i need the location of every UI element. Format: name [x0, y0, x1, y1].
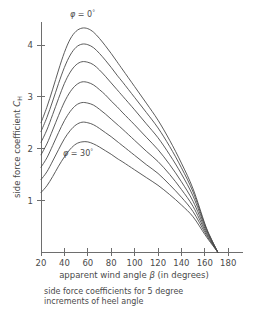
y-axis-title: side force coefficient CH — [12, 96, 23, 198]
phi-zero-label: φ = 0° — [70, 8, 95, 19]
curve-heel-20deg — [41, 102, 218, 252]
curve-group — [41, 28, 218, 252]
x-tick-label: 80 — [106, 258, 117, 268]
y-tick-label: 3 — [28, 92, 33, 102]
phi-thirty-degree: ° — [90, 147, 93, 154]
x-tick-label: 20 — [36, 258, 47, 268]
curve-heel-0deg — [41, 28, 218, 252]
phi-thirty-value: = 30 — [68, 149, 90, 158]
curve-heel-15deg — [41, 82, 218, 252]
y-tick-label: 1 — [28, 196, 33, 206]
y-axis-title-text: side force coefficient — [12, 107, 22, 198]
caption-line-1: side force coefficients for 5 degree — [44, 287, 183, 296]
x-axis-title-units: (in degrees) — [155, 270, 209, 280]
phi-zero-value: = 0 — [75, 10, 92, 19]
y-axis-title-subscript: H — [16, 96, 23, 101]
phi-thirty-label: φ = 30° — [63, 147, 93, 158]
x-axis-title: apparent wind angle β (in degrees) — [59, 270, 209, 280]
y-tick-label: 4 — [28, 40, 33, 50]
x-tick-label: 120 — [150, 258, 166, 268]
y-tick-group: 1 2 3 4 — [28, 40, 45, 205]
caption-group: side force coefficients for 5 degree inc… — [44, 287, 183, 306]
y-axis-title-group: side force coefficient CH — [12, 96, 23, 198]
x-tick-label: 140 — [173, 258, 189, 268]
caption-line-2: increments of heel angle — [44, 297, 144, 306]
x-axis-title-text: apparent wind angle — [59, 270, 149, 280]
x-tick-label: 160 — [197, 258, 213, 268]
x-tick-label: 40 — [59, 258, 70, 268]
phi-zero-degree: ° — [92, 8, 95, 15]
x-tick-label: 60 — [82, 258, 93, 268]
y-tick-label: 2 — [28, 144, 33, 154]
side-force-coefficient-chart: 1 2 3 4 20 40 60 80 100 120 140 160 180 — [0, 0, 259, 315]
x-tick-group: 20 40 60 80 100 120 140 160 180 — [36, 248, 237, 268]
x-tick-label: 100 — [126, 258, 142, 268]
x-axis-title-group: apparent wind angle β (in degrees) — [59, 270, 209, 280]
chart-figure: 1 2 3 4 20 40 60 80 100 120 140 160 180 — [0, 0, 259, 315]
curve-heel-5deg — [41, 44, 218, 252]
axes-group — [41, 22, 243, 252]
x-tick-label: 180 — [220, 258, 236, 268]
